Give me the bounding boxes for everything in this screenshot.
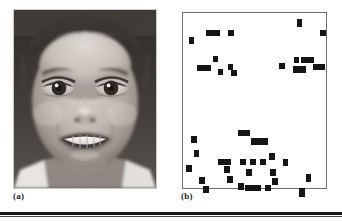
feature-block xyxy=(189,37,194,44)
feature-block xyxy=(224,166,230,173)
page-bottom-rule-thin xyxy=(0,216,342,217)
feature-block xyxy=(272,178,278,185)
feature-block xyxy=(203,186,209,193)
page-bottom-rule xyxy=(0,212,342,215)
feature-block xyxy=(213,56,218,62)
feature-block xyxy=(320,30,326,36)
feature-block xyxy=(238,183,244,190)
feature-block xyxy=(269,153,275,160)
feature-block xyxy=(297,19,302,27)
feature-block xyxy=(299,188,305,197)
feature-block xyxy=(206,30,220,36)
feature-block xyxy=(231,70,237,76)
feature-block xyxy=(240,159,246,165)
feature-block xyxy=(246,169,252,176)
feature-block xyxy=(301,57,314,63)
feature-block xyxy=(260,159,266,165)
feature-block xyxy=(245,185,261,191)
feature-block xyxy=(283,159,288,166)
feature-block xyxy=(228,30,234,36)
face-photo-image xyxy=(14,10,156,188)
feature-block xyxy=(279,63,285,69)
feature-block xyxy=(250,159,256,165)
feature-block xyxy=(199,177,205,184)
panel-a-photograph xyxy=(14,10,156,188)
feature-block xyxy=(251,138,268,145)
block-map-canvas xyxy=(183,13,326,188)
feature-block xyxy=(194,150,199,157)
feature-block xyxy=(191,136,197,143)
feature-block xyxy=(306,174,311,182)
panel-a-caption: (a) xyxy=(13,191,24,202)
feature-block xyxy=(313,64,325,70)
feature-block xyxy=(227,176,233,183)
photo-frame xyxy=(14,10,156,188)
feature-block xyxy=(218,69,223,75)
feature-block xyxy=(293,66,306,73)
feature-block xyxy=(294,57,299,63)
feature-block xyxy=(238,130,250,136)
feature-block xyxy=(197,65,211,71)
feature-block xyxy=(270,169,276,176)
panel-b-blockmap xyxy=(182,12,327,189)
feature-block xyxy=(186,165,192,172)
photo-inner xyxy=(14,10,156,188)
panel-b-caption: (b) xyxy=(181,191,193,202)
figure-container: (a) (b) xyxy=(0,0,342,206)
feature-block xyxy=(218,159,231,165)
feature-block xyxy=(265,185,271,191)
